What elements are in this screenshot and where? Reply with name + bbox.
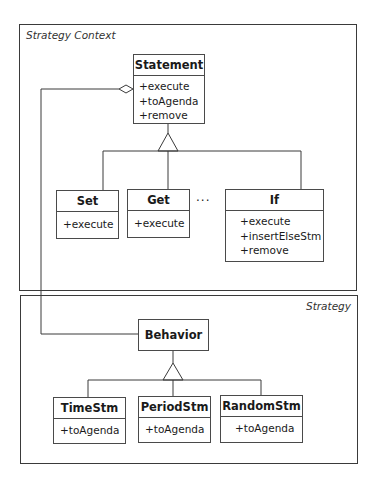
class-statement: Statement +execute +toAgenda +remove (133, 54, 205, 124)
operation: +remove (139, 108, 198, 123)
class-name: RandomStm (221, 396, 302, 417)
class-operations: +execute +toAgenda +remove (134, 76, 204, 126)
operation: +insertElseStm (240, 229, 317, 244)
operation: +toAgenda (235, 421, 296, 436)
class-operations: +toAgenda (54, 419, 125, 441)
class-name: Behavior (139, 320, 208, 350)
class-operations: +execute +insertElseStm +remove (226, 211, 323, 261)
class-operations: +execute (57, 212, 118, 235)
class-name: PeriodStm (139, 397, 210, 418)
operation: +execute (134, 216, 183, 231)
class-if: If +execute +insertElseStm +remove (225, 189, 324, 262)
class-randomstm: RandomStm +toAgenda (220, 395, 303, 443)
class-behavior: Behavior (138, 319, 209, 351)
ellipsis: ··· (196, 194, 210, 208)
class-set: Set +execute (56, 190, 119, 239)
class-name: Statement (134, 55, 204, 76)
operation: +execute (63, 217, 112, 232)
class-operations: +execute (128, 211, 189, 234)
aggregation-diamond-icon (119, 85, 133, 93)
class-get: Get +execute (127, 189, 190, 238)
class-operations: +toAgenda (139, 418, 210, 440)
operation: +remove (240, 243, 317, 258)
class-name: If (226, 190, 323, 211)
class-name: Set (57, 191, 118, 212)
operation: +toAgenda (60, 423, 119, 438)
operation: +toAgenda (139, 94, 198, 109)
class-periodstm: PeriodStm +toAgenda (138, 396, 211, 443)
class-timestm: TimeStm +toAgenda (53, 397, 126, 444)
class-operations: +toAgenda (221, 417, 302, 439)
operation: +execute (139, 79, 198, 94)
generalization-triangle-icon (163, 363, 183, 380)
operation: +toAgenda (145, 422, 204, 437)
operation: +execute (240, 214, 317, 229)
class-name: Get (128, 190, 189, 211)
generalization-triangle-icon (158, 133, 178, 151)
class-name: TimeStm (54, 398, 125, 419)
